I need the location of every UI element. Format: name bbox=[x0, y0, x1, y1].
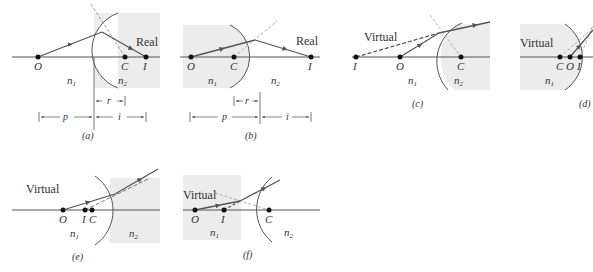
svg-text:n2: n2 bbox=[284, 226, 294, 240]
svg-text:C: C bbox=[556, 60, 564, 72]
object-point bbox=[36, 55, 41, 60]
caption-b: (b) bbox=[245, 130, 257, 142]
svg-text:p: p bbox=[221, 111, 227, 122]
caption-e: (e) bbox=[72, 251, 84, 263]
caption-f: (f) bbox=[243, 249, 253, 261]
image-point bbox=[144, 55, 149, 60]
svg-text:C: C bbox=[265, 213, 273, 225]
image-distance-label: i bbox=[118, 111, 121, 122]
image-type-label: Real bbox=[136, 35, 159, 49]
svg-text:n1: n1 bbox=[67, 74, 76, 88]
svg-text:r: r bbox=[245, 95, 249, 106]
svg-text:C: C bbox=[121, 60, 129, 72]
svg-text:C: C bbox=[89, 213, 97, 225]
svg-text:n1: n1 bbox=[408, 74, 417, 88]
center-point bbox=[123, 55, 128, 60]
svg-text:C: C bbox=[230, 60, 238, 72]
image-type-label: Virtual bbox=[183, 188, 217, 202]
image-type-label: Virtual bbox=[364, 30, 398, 44]
panel-c: Virtual I O C n1 n2 (c) bbox=[352, 15, 490, 110]
caption-c: (c) bbox=[412, 98, 424, 110]
panel-f: Virtual O I C n1 n2 (f) bbox=[183, 175, 320, 261]
panel-a: Real O C I n1 n2 r p i (a) bbox=[12, 4, 160, 142]
svg-text:O: O bbox=[191, 213, 199, 225]
svg-text:O: O bbox=[396, 60, 404, 72]
svg-text:n2: n2 bbox=[271, 74, 281, 88]
svg-text:n1: n1 bbox=[70, 227, 79, 241]
image-type-label: Virtual bbox=[520, 36, 554, 50]
image-type-label: Real bbox=[296, 34, 319, 48]
incident-ray bbox=[63, 194, 115, 210]
refraction-diagram: Real O C I n1 n2 r p i (a) Real O bbox=[0, 0, 593, 272]
panel-b: Real O C I n1 n2 r p i (b) bbox=[180, 21, 320, 142]
object-distance-label: p bbox=[62, 111, 68, 122]
svg-text:O: O bbox=[187, 60, 195, 72]
svg-text:O: O bbox=[566, 60, 574, 72]
radius-label: r bbox=[107, 95, 111, 106]
svg-text:I: I bbox=[307, 60, 313, 72]
svg-text:I: I bbox=[352, 60, 358, 72]
svg-text:O: O bbox=[59, 213, 67, 225]
panel-d: Virtual C O I n1 (d) bbox=[520, 24, 593, 110]
panel-e: Virtual O I C n1 n2 (e) bbox=[12, 169, 160, 263]
caption-d: (d) bbox=[579, 98, 591, 110]
svg-text:C: C bbox=[457, 60, 465, 72]
svg-text:O: O bbox=[34, 60, 42, 72]
caption-a: (a) bbox=[82, 130, 94, 142]
svg-text:I: I bbox=[81, 213, 87, 225]
image-type-label: Virtual bbox=[26, 182, 60, 196]
svg-text:i: i bbox=[286, 111, 289, 122]
